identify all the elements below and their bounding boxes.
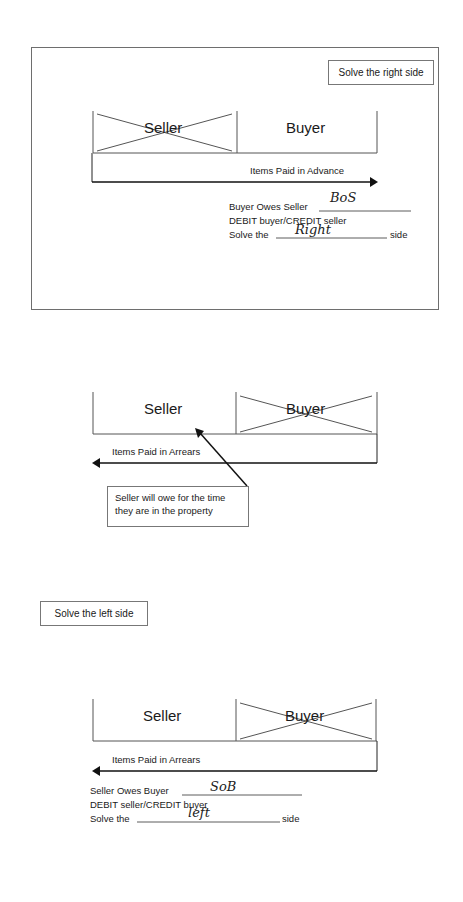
column-seller: Seller	[144, 119, 182, 136]
arrow-label: Items Paid in Arrears	[112, 754, 200, 765]
solve-suffix: side	[282, 813, 299, 824]
solve-suffix: side	[390, 229, 407, 240]
arrow-label: Items Paid in Arrears	[112, 446, 200, 457]
diagram-lines	[0, 0, 463, 902]
owes-handwritten: SoB	[210, 779, 236, 794]
owes-line: Seller Owes Buyer	[90, 785, 169, 796]
column-seller: Seller	[144, 400, 182, 417]
solve-handwritten: left	[188, 805, 210, 820]
arrow-label: Items Paid in Advance	[250, 165, 344, 176]
solve-left-side-label: Solve the left side	[40, 601, 148, 626]
solve-prefix: Solve the	[229, 229, 269, 240]
column-buyer: Buyer	[285, 707, 324, 724]
arrow-left-icon	[92, 766, 100, 776]
column-seller: Seller	[143, 707, 181, 724]
column-buyer: Buyer	[286, 400, 325, 417]
callout-line-1: Seller will owe for the time	[115, 491, 241, 504]
owes-handwritten: BoS	[330, 190, 356, 205]
column-buyer: Buyer	[286, 119, 325, 136]
callout-box: Seller will owe for the time they are in…	[107, 486, 249, 527]
owes-line: Buyer Owes Seller	[229, 201, 308, 212]
arrow-left-icon	[92, 458, 100, 468]
arrow-right-icon	[370, 177, 378, 187]
solve-prefix: Solve the	[90, 813, 130, 824]
callout-line-2: they are in the property	[115, 504, 241, 517]
solve-handwritten: Right	[295, 222, 331, 237]
